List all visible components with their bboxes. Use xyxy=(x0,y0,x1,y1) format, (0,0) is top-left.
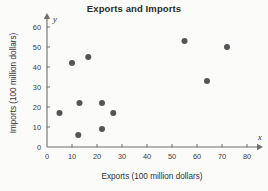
data-point xyxy=(85,54,91,60)
x-tick-label: 20 xyxy=(93,152,101,161)
plot-area: 010203040506070800102030405060 xyExports… xyxy=(0,0,268,191)
y-axis-symbol: y xyxy=(52,14,57,24)
data-point xyxy=(204,78,210,84)
y-tick-label: 40 xyxy=(33,63,41,72)
x-axis-arrow xyxy=(257,144,263,150)
y-tick-label: 60 xyxy=(33,23,41,32)
tick-labels-group: 010203040506070800102030405060 xyxy=(33,23,251,161)
x-axis-label: Exports (100 million dollars) xyxy=(101,172,202,181)
x-tick-label: 60 xyxy=(193,152,201,161)
data-point xyxy=(99,100,105,106)
ticks-group xyxy=(47,27,248,148)
x-axis-symbol: x xyxy=(257,132,262,142)
data-point xyxy=(110,110,116,116)
data-point xyxy=(69,60,75,66)
x-tick-label: 0 xyxy=(45,152,49,161)
x-tick-label: 40 xyxy=(143,152,151,161)
y-tick-label: 10 xyxy=(33,123,41,132)
y-tick-label: 30 xyxy=(33,83,41,92)
y-tick-label: 20 xyxy=(33,103,41,112)
scatter-chart: Exports and Imports 01020304050607080010… xyxy=(0,0,268,191)
data-point xyxy=(182,38,188,44)
x-tick-label: 70 xyxy=(218,152,226,161)
y-tick-label: 0 xyxy=(37,143,41,152)
x-tick-label: 30 xyxy=(118,152,126,161)
data-point xyxy=(99,126,105,132)
data-point xyxy=(77,100,83,106)
data-point xyxy=(75,132,81,138)
data-point xyxy=(57,110,63,116)
y-axis-arrow xyxy=(44,13,50,19)
x-tick-label: 10 xyxy=(68,152,76,161)
data-points-group xyxy=(57,38,231,138)
data-point xyxy=(224,44,230,50)
axes-group xyxy=(44,13,263,150)
y-tick-label: 50 xyxy=(33,43,41,52)
y-axis-label: Imports (100 million dollars) xyxy=(9,32,18,133)
x-tick-label: 50 xyxy=(168,152,176,161)
x-tick-label: 80 xyxy=(243,152,251,161)
